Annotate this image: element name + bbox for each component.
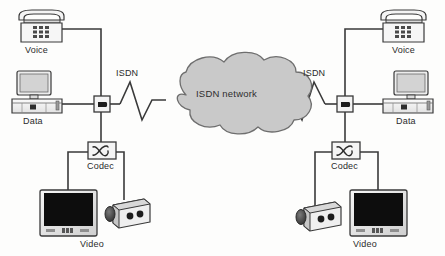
right-codec-box [332,142,360,159]
right-nt1-box [337,96,353,112]
link-left-codec-to-tv [68,152,88,190]
left-tv-icon [40,190,97,236]
left-voice-label: Voice [25,45,48,55]
left-camera-icon [105,199,150,228]
right-codec-label: Codec [331,161,358,171]
left-computer-icon [12,71,62,113]
isdn-zigzag-left [120,82,166,120]
link-right-codec-to-camera [315,152,332,206]
right-data-label: Data [396,116,416,126]
link-right-voice-to-nt1 [345,29,383,96]
right-tv-icon [350,190,407,236]
left-codec-label: Codec [87,161,114,171]
link-left-voice-to-nt1 [62,29,101,96]
link-left-codec-to-camera [116,152,124,200]
left-nt1-box [94,96,110,112]
left-data-label: Data [23,116,43,126]
left-video-label: Video [80,239,104,249]
right-video-label: Video [353,239,377,249]
diagram-canvas [0,0,445,256]
cloud-label: ISDN network [196,88,257,99]
right-camera-icon [296,202,341,231]
right-telephone-icon [381,10,426,42]
left-telephone-icon [19,10,64,42]
left-isdn-label: ISDN [116,68,138,78]
right-isdn-label: ISDN [303,68,325,78]
right-computer-icon [383,71,433,113]
link-right-codec-to-tv [360,152,378,190]
left-codec-box [88,142,116,159]
isdn-network-diagram: ISDN network Voice Data ISDN Codec Video… [0,0,445,256]
right-voice-label: Voice [392,45,415,55]
